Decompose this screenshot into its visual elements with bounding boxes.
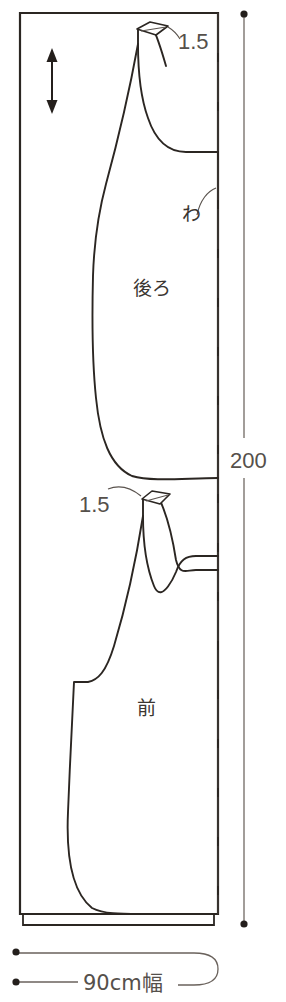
piece-label-front: 前 (137, 697, 156, 719)
fabric-length-label: 200 (230, 448, 267, 473)
fold-mark-label: わ (182, 203, 201, 225)
fabric-width-label: 90cm幅 (83, 971, 163, 995)
piece-label-back: 後ろ (133, 277, 171, 299)
fabric-rectangle (20, 13, 218, 914)
back-strap-measure-label: 1.5 (178, 29, 209, 54)
fabric-bottom-selvage (23, 914, 214, 925)
front-strap-measure-label: 1.5 (79, 492, 110, 517)
pattern-layout-diagram: 1.5 わ 後ろ 1.5 前 200 90cm幅 (0, 0, 286, 1002)
